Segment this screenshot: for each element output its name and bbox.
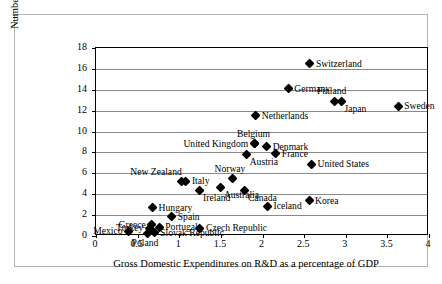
data-point-label: United States xyxy=(318,159,369,169)
diamond-marker-icon xyxy=(283,84,293,94)
data-point-label: Netherlands xyxy=(262,111,308,121)
y-axis-tick-label: 4 xyxy=(63,188,87,198)
diamond-marker-icon xyxy=(148,203,158,213)
y-axis-tick xyxy=(92,111,96,112)
plot-area: SwitzerlandGermanyFinlandJapanSwedenNeth… xyxy=(95,47,428,235)
data-point-label: France xyxy=(282,149,308,159)
data-point-label: Japan xyxy=(345,104,367,114)
data-point-label: Austria xyxy=(250,157,278,167)
data-point-label: United Kingdom xyxy=(183,139,248,149)
data-point-label: New Zealand xyxy=(130,167,181,177)
x-axis-tick-label: 0 xyxy=(75,239,115,249)
data-point-label: Mexico xyxy=(93,226,122,236)
x-axis-title: Gross Domestic Expenditures on R&D as a … xyxy=(61,258,431,269)
y-axis-tick-label: 6 xyxy=(63,167,87,177)
y-axis-tick xyxy=(92,194,96,195)
diamond-marker-icon xyxy=(305,59,315,69)
y-axis-tick-label: 12 xyxy=(63,105,87,115)
y-axis-tick-label: 10 xyxy=(63,126,87,136)
y-axis-tick xyxy=(92,90,96,91)
diamond-marker-icon xyxy=(251,111,261,121)
y-axis-title: Number of triadic patents per million of… xyxy=(9,0,34,43)
y-axis-tick xyxy=(92,48,96,49)
x-axis-tick-label: 3 xyxy=(325,239,365,249)
y-axis-tick xyxy=(92,152,96,153)
chart-figure: Number of triadic patents per million of… xyxy=(0,0,442,284)
x-axis-tick-label: 3.5 xyxy=(366,239,406,249)
x-axis-tick-label: 2.5 xyxy=(283,239,323,249)
data-point-label: Spain xyxy=(178,212,200,222)
x-axis-tick-label: 4 xyxy=(408,239,442,249)
gridline xyxy=(96,152,427,153)
diamond-marker-icon xyxy=(304,196,314,206)
x-axis-tick xyxy=(429,234,430,238)
diamond-marker-icon xyxy=(262,142,272,152)
data-point-label: Slovak Republic xyxy=(160,228,224,238)
x-axis-tick xyxy=(304,234,305,238)
y-axis-tick xyxy=(92,173,96,174)
x-axis-tick-label: 1 xyxy=(158,239,198,249)
x-axis-tick-label: 1.5 xyxy=(200,239,240,249)
x-axis-tick xyxy=(387,234,388,238)
y-axis-tick-label: 16 xyxy=(63,63,87,73)
y-axis-tick xyxy=(92,69,96,70)
data-point-label: Canada xyxy=(248,193,277,203)
x-axis-tick xyxy=(263,234,264,238)
y-axis-tick-label: 18 xyxy=(63,42,87,52)
data-point-label: Korea xyxy=(315,196,338,206)
data-point-label: Finland xyxy=(317,86,346,96)
data-point-label: Italy xyxy=(192,176,210,186)
x-axis-tick-label: 2 xyxy=(242,239,282,249)
diamond-marker-icon xyxy=(249,139,259,149)
gridline xyxy=(96,90,427,91)
y-axis-tick-label: 14 xyxy=(63,84,87,94)
data-point-label: Norway xyxy=(215,164,246,174)
data-point-label: Switzerland xyxy=(316,59,362,69)
gridline xyxy=(96,69,427,70)
data-point-label: Iceland xyxy=(273,201,301,211)
x-axis-tick xyxy=(346,234,347,238)
data-point-label: Sweden xyxy=(404,101,434,111)
y-axis-tick-label: 8 xyxy=(63,146,87,156)
data-point-label: Poland xyxy=(132,238,159,248)
diamond-marker-icon xyxy=(227,173,237,183)
y-axis-tick xyxy=(92,132,96,133)
y-axis-tick-label: 2 xyxy=(63,209,87,219)
data-point-label: Ireland xyxy=(203,193,230,203)
figure-border: Number of triadic patents per million of… xyxy=(14,14,428,267)
gridline xyxy=(96,215,427,216)
y-axis-tick xyxy=(92,236,96,237)
diamond-marker-icon xyxy=(307,159,317,169)
y-axis-tick xyxy=(92,215,96,216)
